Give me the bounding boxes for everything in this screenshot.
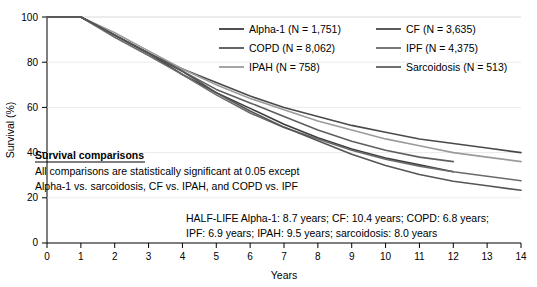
x-tick-label: 3	[146, 251, 152, 262]
x-tick-label: 10	[380, 251, 392, 262]
comparisons-heading: Survival comparisons	[35, 149, 144, 161]
x-tick-label: 6	[247, 251, 253, 262]
x-tick-label: 1	[78, 251, 84, 262]
x-tick-label: 2	[112, 251, 118, 262]
legend-label-copd: COPD (N = 8,062)	[249, 42, 335, 54]
x-tick-label: 14	[515, 251, 527, 262]
comparisons-line-1: All comparisons are statistically signif…	[35, 165, 299, 177]
legend-label-alpha1: Alpha-1 (N = 1,751)	[249, 23, 341, 35]
y-tick-label: 100	[21, 12, 38, 23]
x-tick-label: 12	[448, 251, 460, 262]
chart-container: 100 80 60 40 20 0 0 1 2 3 4 5 6 7 8 9 10…	[0, 0, 537, 287]
x-tick-label: 8	[315, 251, 321, 262]
x-tick-label: 13	[482, 251, 494, 262]
x-tick-label: 4	[180, 251, 186, 262]
y-tick-label: 80	[27, 57, 39, 68]
survival-line-chart: 100 80 60 40 20 0 0 1 2 3 4 5 6 7 8 9 10…	[0, 0, 537, 287]
halflife-line-1: HALF-LIFE Alpha-1: 8.7 years; CF: 10.4 y…	[186, 212, 489, 224]
legend-label-ipah: IPAH (N = 758)	[249, 61, 320, 73]
legend-label-cf: CF (N = 3,635)	[406, 23, 476, 35]
x-tick-label: 11	[414, 251, 425, 262]
x-axis-title: Years	[271, 269, 297, 281]
halflife-line-2: IPF: 6.9 years; IPAH: 9.5 years; sarcoid…	[186, 227, 437, 239]
x-tick-label: 0	[44, 251, 50, 262]
y-tick-label: 20	[27, 192, 39, 203]
y-axis-title: Survival (%)	[4, 102, 16, 159]
y-tick-label: 0	[32, 237, 38, 248]
legend-label-sarcoidosis: Sarcoidosis (N = 513)	[406, 61, 507, 73]
x-tick-label: 9	[349, 251, 355, 262]
x-tick-label: 5	[214, 251, 220, 262]
legend-label-ipf: IPF (N = 4,375)	[406, 42, 478, 54]
x-tick-label: 7	[281, 251, 287, 262]
comparisons-line-2: Alpha-1 vs. sarcoidosis, CF vs. IPAH, an…	[35, 180, 298, 192]
y-tick-label: 60	[27, 102, 39, 113]
